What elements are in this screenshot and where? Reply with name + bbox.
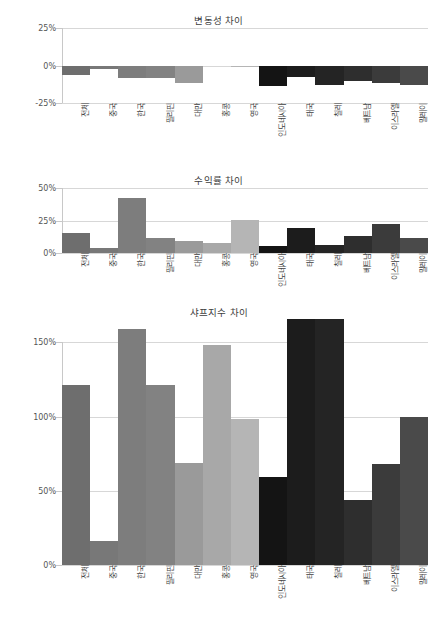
bar [400,238,428,253]
x-axis-tick-label: 칠레 [332,103,343,117]
x-axis-tick-label: 대만 [192,103,203,117]
chart-title-sharpe: 샤프지수 차이 [0,306,438,320]
bar [231,66,259,67]
bar [344,236,372,253]
bar-series [62,188,428,253]
plot-area-volatility: 25%0%-25% [0,28,438,103]
bar [203,243,231,253]
x-axis-tick-label: 이스라엘 [389,565,400,592]
y-axis-tick-label: 25% [10,216,56,225]
bar [372,464,400,565]
bar [372,224,400,253]
chart-title-return: 수익률 차이 [0,174,438,188]
bar [344,500,372,565]
x-axis-tick-label: 이스라엘 [389,253,400,280]
bar [175,241,203,253]
x-axis-labels-sharpe: 전체중국한국필리핀대만홍콩영국인도네시아태국칠레베트남이스라엘말레이 [62,565,428,617]
y-axis-tick-label: 0% [10,61,56,70]
x-axis-tick-label: 전체 [79,253,90,267]
y-axis-tick-label: 25% [10,24,56,33]
x-axis-tick-label: 태국 [304,103,315,117]
x-axis-tick-label: 홍콩 [220,565,231,579]
x-axis-labels-return: 전체중국한국필리핀대만홍콩영국인도네시아태국칠레베트남이스라엘말레이 [62,253,428,308]
bar [400,417,428,565]
x-axis-tick-label: 칠레 [332,253,343,267]
bar-series [62,320,428,565]
x-axis-tick-label: 말레이 [417,565,428,585]
bar [287,228,315,253]
chart-panel-sharpe: 샤프지수 차이 150%100%50%0% 전체중국한국필리핀대만홍콩영국인도네… [0,306,438,565]
x-axis-tick-label: 대만 [192,565,203,579]
bar [400,66,428,86]
bar [315,66,343,86]
bar [259,66,287,86]
y-axis-tick-label: 50% [10,184,56,193]
x-axis-tick-label: 인도네시아 [276,103,287,137]
x-axis-tick-label: 태국 [304,253,315,267]
plot-area-return: 50%25%0% [0,188,438,253]
bar [62,66,90,76]
y-axis-tick-label: 0% [10,561,56,570]
x-axis-tick-label: 칠레 [332,565,343,579]
x-axis-labels-volatility: 전체중국한국필리핀대만홍콩영국인도네시아태국칠레베트남이스라엘말레이 [62,103,428,158]
x-axis-tick-label: 한국 [135,103,146,117]
bar [146,385,174,565]
x-axis-tick-label: 전체 [79,103,90,117]
bar [344,66,372,82]
bar [287,66,315,77]
bar [231,419,259,565]
bar [62,385,90,565]
bar [372,66,400,83]
figure-canvas: 변동성 차이 25%0%-25% 전체중국한국필리핀대만홍콩영국인도네시아태국칠… [0,0,438,619]
chart-panel-return: 수익률 차이 50%25%0% 전체중국한국필리핀대만홍콩영국인도네시아태국칠레… [0,174,438,253]
bar [90,541,118,565]
x-axis-tick-label: 전체 [79,565,90,579]
x-axis-tick-label: 베트남 [361,253,372,273]
x-axis-tick-label: 말레이 [417,103,428,123]
x-axis-tick-label: 대만 [192,253,203,267]
bar [62,233,90,253]
x-axis-tick-label: 필리핀 [164,565,175,585]
x-axis-tick-label: 영국 [248,565,259,579]
chart-panel-volatility: 변동성 차이 25%0%-25% 전체중국한국필리핀대만홍콩영국인도네시아태국칠… [0,14,438,103]
x-axis-tick-label: 중국 [107,103,118,117]
bar [203,345,231,565]
bar [175,463,203,565]
x-axis-tick-label: 한국 [135,253,146,267]
x-axis-tick-label: 필리핀 [164,103,175,123]
bar [118,66,146,78]
x-axis-tick-label: 인도네시아 [276,253,287,287]
bar [259,246,287,253]
y-axis-tick-label: 50% [10,486,56,495]
y-axis-tick-label: 100% [10,412,56,421]
bar [287,319,315,565]
x-axis-tick-label: 영국 [248,103,259,117]
x-axis-tick-label: 이스라엘 [389,103,400,130]
x-axis-tick-label: 중국 [107,565,118,579]
bar [231,220,259,253]
x-axis-tick-label: 베트남 [361,565,372,585]
bar [175,66,203,83]
x-axis-tick-label: 한국 [135,565,146,579]
y-axis-tick-label: -25% [10,99,56,108]
chart-title-volatility: 변동성 차이 [0,14,438,28]
y-axis-tick-label: 150% [10,338,56,347]
x-axis-tick-label: 홍콩 [220,103,231,117]
x-axis-tick-label: 필리핀 [164,253,175,273]
x-axis-tick-label: 인도네시아 [276,565,287,599]
bar [146,66,174,78]
x-axis-tick-label: 태국 [304,565,315,579]
bar [90,66,118,70]
x-axis-tick-label: 베트남 [361,103,372,123]
bar [146,238,174,253]
x-axis-tick-label: 홍콩 [220,253,231,267]
bar [118,198,146,253]
bar-series [62,28,428,103]
y-axis-tick-label: 0% [10,249,56,258]
x-axis-tick-label: 말레이 [417,253,428,273]
x-axis-tick-label: 영국 [248,253,259,267]
bar [259,477,287,565]
plot-area-sharpe: 150%100%50%0% [0,320,438,565]
x-axis-tick-label: 중국 [107,253,118,267]
bar [315,319,343,565]
